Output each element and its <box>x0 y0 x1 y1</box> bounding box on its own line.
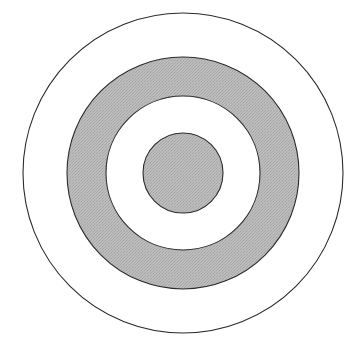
circle-center <box>143 133 223 213</box>
concentric-circles-figure <box>0 0 351 349</box>
figure-canvas <box>0 0 351 349</box>
